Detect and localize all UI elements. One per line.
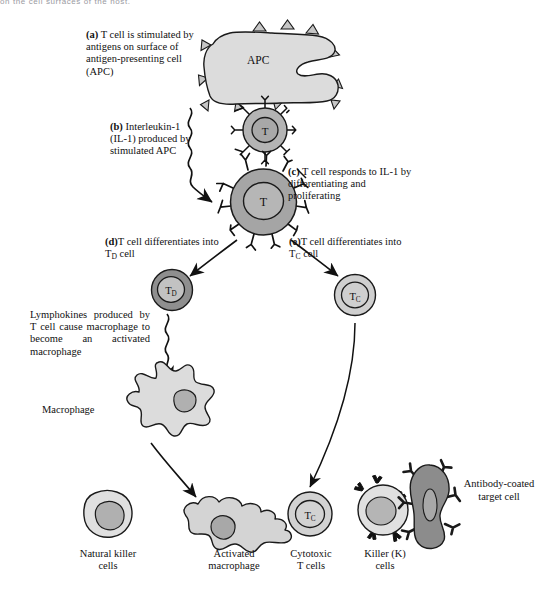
- step-b-text: (b) Interleukin-1 (IL-1) produced by sti…: [110, 121, 196, 158]
- step-d-sub: D: [111, 252, 116, 261]
- outcome-1-line2: macrophage: [186, 560, 282, 572]
- step-d-marker: (d): [105, 236, 118, 247]
- outcome-3-line1: Killer (K): [345, 548, 425, 560]
- outcome-3-line2: cells: [345, 560, 425, 572]
- antibody-coated-target-cell: [399, 460, 460, 548]
- step-b-body: Interleukin-1 (IL-1) produced by stimula…: [110, 121, 190, 156]
- step-c-text: (c) T cell responds to IL-1 by different…: [288, 166, 412, 203]
- antibody-target-label: Antibody-coated target cell: [462, 478, 536, 503]
- step-b-marker: (b): [110, 121, 123, 132]
- step-e-marker: (e): [289, 236, 301, 247]
- step-e-tail: cell: [301, 248, 319, 259]
- macrophage-label: Macrophage: [42, 404, 94, 416]
- step-e-sub: C: [295, 252, 300, 261]
- step-a-text: (a) T cell is stimulated by antigens on …: [86, 29, 206, 78]
- outcome-label-cytotoxic-t: Cytotoxic T cells: [270, 548, 352, 572]
- natural-killer-cell: [84, 491, 132, 538]
- outcome-1-line1: Activated: [186, 548, 282, 560]
- step-a-body: T cell is stimulated by antigens on surf…: [86, 29, 194, 77]
- outcome-2-line2: T cells: [270, 560, 352, 572]
- outcome-0-line1: Natural killer: [58, 548, 158, 560]
- macrophage-cell: [127, 362, 214, 436]
- figure-canvas: on the cell surfaces of the host.: [0, 0, 539, 596]
- step-d-text: (d)T cell differentiates into TD cell: [105, 236, 223, 261]
- step-a-marker: (a): [86, 29, 98, 40]
- cytotoxic-t-cell-bottom: TC: [288, 492, 332, 536]
- outcome-2-line1: Cytotoxic: [270, 548, 352, 560]
- t-cell-activated-label: T: [260, 195, 268, 209]
- outcome-0-line2: cells: [58, 560, 158, 572]
- outcome-label-killer-k: Killer (K) cells: [345, 548, 425, 572]
- diagram-artwork: APC T: [0, 0, 539, 596]
- lymphokine-note: Lymphokines produced by T cell cause mac…: [30, 309, 150, 358]
- apc-cell: APC: [199, 20, 343, 112]
- apc-label: APC: [247, 54, 270, 66]
- step-c-marker: (c): [288, 166, 300, 177]
- tc-cell-upper: TC: [335, 275, 376, 316]
- outcome-label-natural-killer: Natural killer cells: [58, 548, 158, 572]
- t-cell-label: T: [262, 125, 269, 137]
- activated-macrophage-cell: [184, 497, 291, 552]
- outcome-label-activated-macrophage: Activated macrophage: [186, 548, 282, 572]
- step-e-text: (e)T cell differentiates into TC cell: [289, 236, 409, 261]
- step-d-tail: cell: [117, 248, 135, 259]
- step-c-body: T cell responds to IL-1 by differentiati…: [288, 166, 411, 201]
- td-cell: TD: [152, 270, 193, 311]
